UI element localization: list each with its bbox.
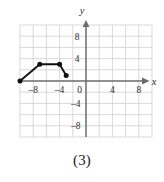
data-point xyxy=(57,62,62,67)
x-axis xyxy=(20,78,150,85)
figure-caption: (3) xyxy=(0,152,164,169)
y-axis-arrow xyxy=(83,20,90,27)
y-tick-label-4: 4 xyxy=(75,54,80,64)
origin-label: 0 xyxy=(77,85,82,95)
x-tick-label-8: 8 xyxy=(136,85,141,95)
data-point xyxy=(64,73,69,78)
x-tick-label-neg8: –8 xyxy=(27,85,38,95)
y-tick-label-8: 8 xyxy=(75,32,80,42)
y-tick-label-neg8: –8 xyxy=(70,121,81,131)
coordinate-plane-svg: #gridlines line { stroke: #cfcfcf; strok… xyxy=(0,0,164,158)
x-axis-arrow xyxy=(142,78,150,85)
data-point xyxy=(18,79,23,84)
x-tick-label-neg4: –4 xyxy=(54,85,65,95)
plot-area: #gridlines line { stroke: #cfcfcf; strok… xyxy=(0,0,164,158)
figure-container: #gridlines line { stroke: #cfcfcf; strok… xyxy=(0,0,164,182)
data-point xyxy=(37,62,42,67)
data-series xyxy=(18,62,69,84)
y-axis-label: y xyxy=(79,5,85,16)
y-axis xyxy=(83,20,90,137)
x-axis-label: x xyxy=(151,76,157,87)
y-tick-label-neg4: –4 xyxy=(70,99,81,109)
x-tick-label-4: 4 xyxy=(110,85,115,95)
